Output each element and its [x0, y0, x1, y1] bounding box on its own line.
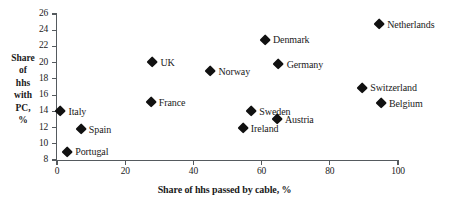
y-tick-label-12: 12	[26, 123, 48, 133]
x-axis-title: Share of hhs passed by cable, %	[0, 184, 449, 195]
data-point-label: Portugal	[75, 145, 108, 158]
x-tick-100	[397, 160, 398, 165]
data-point-label: UK	[160, 56, 174, 69]
y-tick-label-20: 20	[26, 58, 48, 68]
x-tick-label-80: 80	[310, 167, 350, 177]
x-tick-40	[193, 160, 194, 165]
y-tick-label-26: 26	[26, 9, 48, 19]
data-point-label: Switzerland	[370, 81, 417, 94]
y-tick-label-16: 16	[26, 90, 48, 100]
y-tick-label-10: 10	[26, 139, 48, 149]
x-tick-label-40: 40	[173, 167, 213, 177]
scatter-chart: ShareofhhswithPC,% 8101214161820222426 0…	[0, 0, 449, 203]
data-point-label: Ireland	[251, 122, 279, 135]
x-tick-label-0: 0	[37, 167, 77, 177]
data-point-label: Italy	[68, 105, 86, 118]
y-tick-label-22: 22	[26, 41, 48, 51]
data-point-label: Austria	[285, 113, 314, 126]
plot-area	[57, 14, 398, 160]
data-point-label: Netherlands	[387, 18, 434, 31]
y-tick-label-14: 14	[26, 106, 48, 116]
x-tick-0	[56, 160, 57, 165]
x-tick-80	[329, 160, 330, 165]
x-tick-60	[261, 160, 262, 165]
data-point-label: France	[159, 96, 186, 109]
x-tick-label-20: 20	[105, 167, 145, 177]
data-point-label: Belgium	[389, 97, 423, 110]
x-tick-20	[125, 160, 126, 165]
data-point-label: Spain	[89, 123, 111, 136]
x-tick-label-100: 100	[378, 167, 418, 177]
data-point-label: Norway	[218, 65, 250, 78]
data-point-label: Denmark	[273, 33, 310, 46]
y-tick-label-18: 18	[26, 74, 48, 84]
y-tick-label-8: 8	[26, 155, 48, 165]
x-tick-label-60: 60	[242, 167, 282, 177]
y-tick-label-24: 24	[26, 25, 48, 35]
data-point-label: Germany	[287, 58, 324, 71]
